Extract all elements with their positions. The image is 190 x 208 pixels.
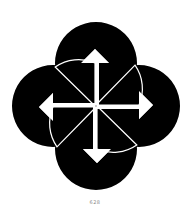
pinwheel-arrows-logo xyxy=(0,0,190,200)
figure-caption: 628 xyxy=(0,199,190,206)
